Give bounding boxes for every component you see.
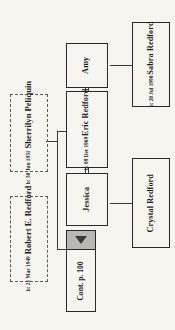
ancestor-box-sherrilyn[interactable]: Sherrilyn Peliquin b: 30 Jun 1951: [10, 94, 48, 172]
person-sabra-birth: b: 20 Jul 1990: [148, 76, 154, 108]
ancestor-robert-name: Robert E. Redford: [25, 186, 34, 255]
continuation-box[interactable]: Cont. p. 100: [66, 230, 96, 312]
person-eric-name: Eric Redford: [83, 89, 92, 136]
ancestor-sherrilyn-name: Sherrilyn Peliquin: [24, 81, 33, 149]
person-crystal-name: Crystal Redford: [147, 174, 156, 233]
person-crystal-content: Crystal Redford: [147, 174, 156, 233]
child-connector-jessica-crystal: [110, 203, 132, 204]
continuation-label-wrap: Cont. p. 100: [67, 250, 95, 311]
continuation-marker[interactable]: [67, 231, 95, 250]
parent-bracket-to-continuation: [57, 249, 66, 250]
ancestor-robert-birth: b: 21 Mar 1949: [26, 257, 32, 292]
person-jessica-name: Jessica: [83, 187, 92, 212]
person-sabra-content: Sabra Redford b: 20 Jul 1990: [147, 21, 156, 107]
family-tree-chart: Amy Eric Redford b: 09 Dec 1969 Jessica …: [0, 0, 175, 330]
person-eric-birth: b: 09 Dec 1969: [84, 137, 90, 170]
person-box-crystal[interactable]: Crystal Redford: [132, 158, 170, 248]
person-box-eric[interactable]: Eric Redford b: 09 Dec 1969: [66, 91, 108, 168]
person-jessica-content: Jessica: [83, 187, 92, 212]
person-box-jessica[interactable]: Jessica: [66, 173, 108, 226]
person-box-amy[interactable]: Amy: [66, 43, 108, 88]
ancestor-robert-content: Robert E. Redford b: 21 Mar 1949: [25, 186, 34, 292]
ancestor-sherrilyn-birth: b: 30 Jun 1951: [26, 151, 32, 185]
person-eric-content: Eric Redford b: 09 Dec 1969: [83, 89, 92, 170]
triangle-down-icon: [75, 236, 87, 244]
ancestor-box-robert[interactable]: Robert E. Redford b: 21 Mar 1949: [10, 196, 48, 282]
parent-bracket-spine: [57, 131, 58, 250]
parent-bracket-to-eric: [57, 131, 66, 132]
person-box-sabra[interactable]: Sabra Redford b: 20 Jul 1990: [132, 22, 170, 107]
ancestor-sherrilyn-content: Sherrilyn Peliquin b: 30 Jun 1951: [24, 81, 33, 184]
person-amy-content: Amy: [83, 57, 92, 74]
continuation-label: Cont. p. 100: [77, 261, 85, 300]
person-sabra-name: Sabra Redford: [147, 21, 156, 74]
person-amy-name: Amy: [83, 57, 92, 74]
child-connector-amy-sabra: [110, 65, 132, 66]
